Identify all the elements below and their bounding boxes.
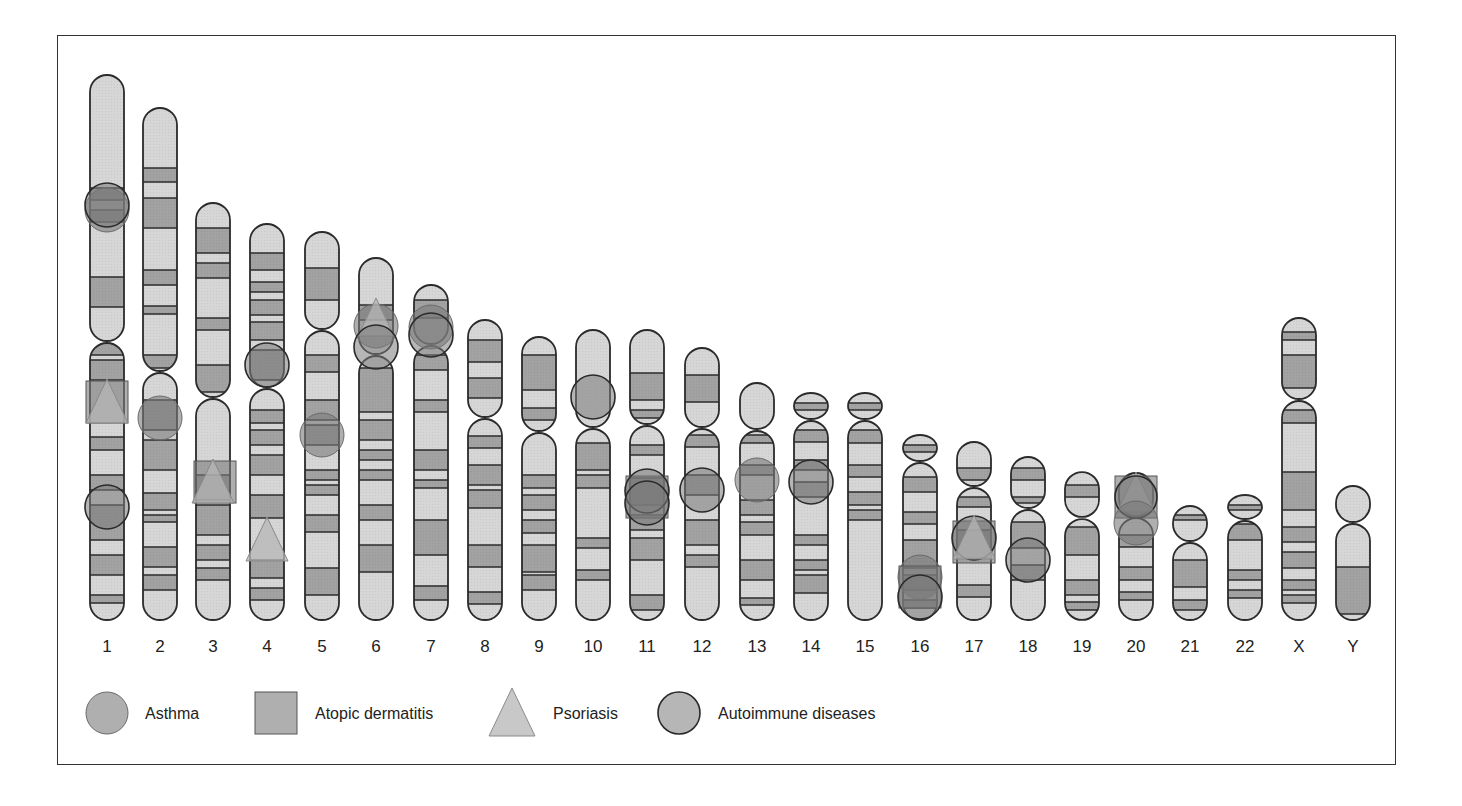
chromosome-label: 9 [534, 637, 543, 656]
chromosome-label: 2 [155, 637, 164, 656]
autoimmune-marker-icon [354, 325, 398, 369]
chromosome-label: 19 [1073, 637, 1092, 656]
autoimmune-marker-icon [625, 481, 669, 525]
chromosome-label: 6 [371, 637, 380, 656]
chromosome-10 [576, 330, 610, 620]
q-arm [1228, 521, 1262, 620]
asthma-marker-icon [86, 692, 128, 734]
q-arm [685, 429, 719, 620]
autoimmune-marker-icon [85, 485, 129, 529]
autoimmune-marker-icon [680, 468, 724, 512]
chromosome-label: 5 [317, 637, 326, 656]
q-arm [1336, 524, 1370, 620]
p-arm [630, 330, 664, 424]
autoimmune-marker-icon [658, 692, 700, 734]
q-arm [468, 419, 502, 620]
chromosome-22 [1228, 495, 1262, 620]
chromosome-label: 22 [1236, 637, 1255, 656]
chromosome-14 [794, 393, 828, 620]
chromosome-3 [196, 203, 230, 620]
p-arm [196, 203, 230, 397]
asthma-marker-icon [138, 396, 182, 440]
chromosome-label: Y [1347, 637, 1358, 656]
chromosome-label: 1 [102, 637, 111, 656]
p-arm [143, 108, 177, 371]
chromosome-label: 17 [965, 637, 984, 656]
autoimmune-marker-icon [245, 343, 289, 387]
legend-label: Atopic dermatitis [315, 705, 433, 722]
legend-item-asthma: Asthma [86, 692, 199, 734]
q-arm [576, 429, 610, 620]
chromosome-19 [1065, 472, 1099, 620]
legend-item-atopic: Atopic dermatitis [255, 692, 433, 734]
autoimmune-marker-icon [571, 375, 615, 419]
chromosome-label: 3 [208, 637, 217, 656]
p-arm [685, 348, 719, 427]
chromosome-label: 10 [584, 637, 603, 656]
chromosome-label: 21 [1181, 637, 1200, 656]
chromosome-label: 16 [911, 637, 930, 656]
chromosome-labels: 12345678910111213141516171819202122XY [102, 637, 1358, 656]
autoimmune-marker-icon [789, 460, 833, 504]
p-arm [305, 232, 339, 329]
q-arm [250, 389, 284, 620]
psoriasis-marker-icon [489, 688, 535, 736]
chromosome-label: 7 [426, 637, 435, 656]
p-arm [1065, 472, 1099, 517]
chromosome-label: 11 [638, 637, 656, 656]
q-arm [414, 346, 448, 620]
legend-label: Asthma [145, 705, 199, 722]
q-arm [522, 433, 556, 620]
q-arm [196, 399, 230, 620]
q-arm [848, 421, 882, 620]
chromosome-label: 12 [693, 637, 712, 656]
chromosome-label: X [1293, 637, 1304, 656]
p-arm [740, 383, 774, 429]
p-arm [1011, 457, 1045, 508]
chromosome-label: 14 [802, 637, 821, 656]
chromosome-9 [522, 337, 556, 620]
chromosome-label: 4 [262, 637, 271, 656]
chromosome-label: 18 [1019, 637, 1038, 656]
chromosome-21 [1173, 506, 1207, 620]
chromosome-label: 13 [748, 637, 767, 656]
chromosome-8 [468, 320, 502, 620]
karyotype-figure: 12345678910111213141516171819202122XY As… [0, 0, 1462, 806]
q-arm [359, 356, 393, 620]
chromosome-x [1282, 318, 1316, 620]
autoimmune-marker-icon [85, 183, 129, 227]
autoimmune-marker-icon [409, 313, 453, 357]
p-arm [468, 320, 502, 417]
atopic-dermatitis-marker-icon [255, 692, 297, 734]
chromosome-set [90, 75, 1370, 620]
asthma-marker-icon [735, 458, 779, 502]
q-arm [1173, 543, 1207, 620]
disease-markers [85, 183, 1158, 619]
p-arm [957, 442, 991, 486]
legend-label: Psoriasis [553, 705, 618, 722]
chromosome-y [1336, 486, 1370, 620]
q-arm [1282, 401, 1316, 620]
p-arm [1282, 318, 1316, 399]
q-arm [794, 421, 828, 620]
chromosome-1 [90, 75, 124, 620]
asthma-marker-icon [300, 413, 344, 457]
chromosome-label: 15 [856, 637, 875, 656]
legend: AsthmaAtopic dermatitisPsoriasisAutoimmu… [86, 688, 875, 736]
q-arm [1065, 519, 1099, 620]
p-arm [522, 337, 556, 431]
chromosome-15 [848, 393, 882, 620]
chromosome-label: 8 [480, 637, 489, 656]
asthma-marker-icon [1114, 501, 1158, 545]
legend-label: Autoimmune diseases [718, 705, 875, 722]
autoimmune-marker-icon [1006, 538, 1050, 582]
legend-item-autoimmune: Autoimmune diseases [658, 692, 875, 734]
chromosome-label: 20 [1127, 637, 1146, 656]
chromosome-2 [143, 108, 177, 620]
autoimmune-marker-icon [898, 575, 942, 619]
legend-item-psoriasis: Psoriasis [489, 688, 618, 736]
q-arm [305, 331, 339, 620]
